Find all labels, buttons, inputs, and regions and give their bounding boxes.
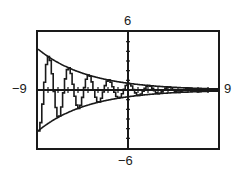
graph-screen <box>0 0 238 174</box>
